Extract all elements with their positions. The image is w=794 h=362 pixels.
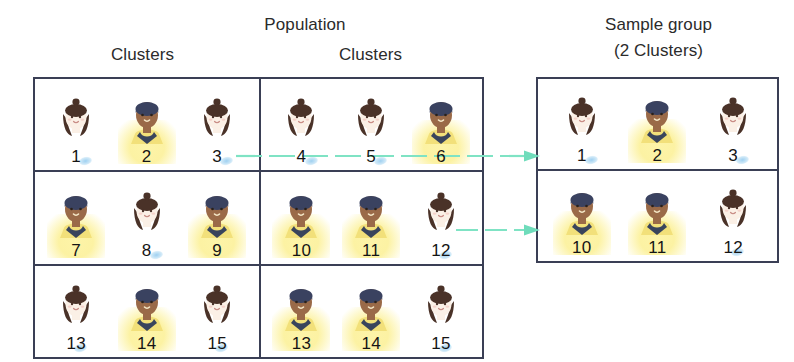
person-number: 10 — [572, 238, 592, 257]
person-figure: 3 — [702, 81, 764, 165]
person-figure: 15 — [410, 269, 472, 353]
person-number: 13 — [292, 334, 312, 353]
person-figure: 1 — [551, 81, 613, 165]
person-icon — [348, 94, 394, 148]
population-cluster-row: 7 8 9 — [35, 170, 259, 263]
person-figure: 12 — [702, 173, 764, 257]
person-number: 12 — [431, 241, 451, 260]
person-number: 14 — [361, 334, 381, 353]
person-figure: 1 — [45, 82, 107, 166]
sample-group-grid: 1 2 3 — [536, 77, 779, 263]
population-cluster-row: 10 11 12 — [261, 170, 483, 263]
clusters-label-left: Clusters — [30, 44, 255, 66]
population-cluster-row: 13 14 15 — [35, 264, 259, 357]
person-icon — [710, 185, 756, 239]
person-figure: 10 — [270, 176, 332, 260]
person-icon — [710, 93, 756, 147]
population-grid: 1 2 3 — [33, 77, 484, 359]
person-number: 3 — [728, 146, 738, 165]
person-figure: 9 — [186, 176, 248, 260]
person-icon — [194, 188, 240, 242]
person-icon — [634, 185, 680, 239]
sample-group-subtitle: (2 Clusters) — [536, 40, 781, 62]
person-figure: 11 — [626, 173, 688, 257]
person-icon — [418, 281, 464, 335]
person-icon — [278, 281, 324, 335]
person-number: 6 — [436, 147, 446, 166]
person-figure: 6 — [410, 82, 472, 166]
person-number: 2 — [653, 146, 663, 165]
person-figure: 13 — [270, 269, 332, 353]
population-cluster-row: 13 14 15 — [261, 264, 483, 357]
person-figure: 10 — [551, 173, 613, 257]
person-number: 3 — [212, 147, 222, 166]
person-icon — [418, 188, 464, 242]
person-icon — [634, 93, 680, 147]
person-number: 15 — [207, 334, 227, 353]
person-icon — [194, 94, 240, 148]
person-number: 10 — [292, 241, 312, 260]
person-icon — [53, 188, 99, 242]
person-number: 15 — [431, 334, 451, 353]
person-number: 11 — [648, 238, 666, 257]
person-icon — [53, 94, 99, 148]
person-icon — [194, 281, 240, 335]
person-icon — [559, 93, 605, 147]
person-figure: 2 — [116, 82, 178, 166]
clusters-label-right: Clusters — [258, 44, 483, 66]
sample-cluster-row: 1 2 3 — [538, 79, 777, 169]
person-figure: 5 — [340, 82, 402, 166]
person-icon — [124, 188, 170, 242]
person-number: 5 — [366, 147, 376, 166]
population-cluster-row: 4 5 6 — [261, 79, 483, 170]
person-figure: 15 — [186, 269, 248, 353]
person-number: 8 — [142, 241, 152, 260]
person-figure: 14 — [116, 269, 178, 353]
person-number: 13 — [66, 334, 86, 353]
population-cluster-column: 4 5 6 — [259, 79, 483, 357]
person-figure: 7 — [45, 176, 107, 260]
person-number: 12 — [723, 238, 743, 257]
person-number: 1 — [71, 147, 81, 166]
person-icon — [53, 281, 99, 335]
person-number: 4 — [297, 147, 307, 166]
person-icon — [348, 188, 394, 242]
person-icon — [418, 94, 464, 148]
person-number: 1 — [577, 146, 587, 165]
cluster-sampling-diagram: Population Clusters Clusters Sample grou… — [0, 0, 794, 362]
person-number: 9 — [212, 241, 222, 260]
person-icon — [559, 185, 605, 239]
person-icon — [124, 94, 170, 148]
person-icon — [348, 281, 394, 335]
person-icon — [278, 188, 324, 242]
population-cluster-column: 1 2 3 — [35, 79, 259, 357]
person-number: 11 — [362, 241, 380, 260]
person-number: 2 — [142, 147, 152, 166]
person-icon — [124, 281, 170, 335]
person-figure: 2 — [626, 81, 688, 165]
population-cluster-row: 1 2 3 — [35, 79, 259, 170]
person-figure: 3 — [186, 82, 248, 166]
person-figure: 4 — [270, 82, 332, 166]
person-figure: 14 — [340, 269, 402, 353]
sample-cluster-row: 10 11 12 — [538, 169, 777, 261]
person-figure: 8 — [116, 176, 178, 260]
person-number: 14 — [137, 334, 157, 353]
person-number: 7 — [71, 241, 81, 260]
person-figure: 11 — [340, 176, 402, 260]
person-icon — [278, 94, 324, 148]
person-figure: 12 — [410, 176, 472, 260]
person-figure: 13 — [45, 269, 107, 353]
population-title: Population — [140, 14, 470, 36]
sample-group-title: Sample group — [536, 14, 781, 36]
